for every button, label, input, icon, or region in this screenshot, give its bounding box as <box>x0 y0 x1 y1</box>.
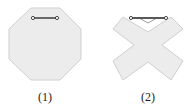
figure-1-label: (1) <box>25 90 65 105</box>
figure-1-octagon <box>9 8 81 80</box>
figure-2-x-cross <box>113 16 183 80</box>
figure-2-label: (2) <box>128 90 168 105</box>
handle-bar-icon <box>129 16 167 23</box>
